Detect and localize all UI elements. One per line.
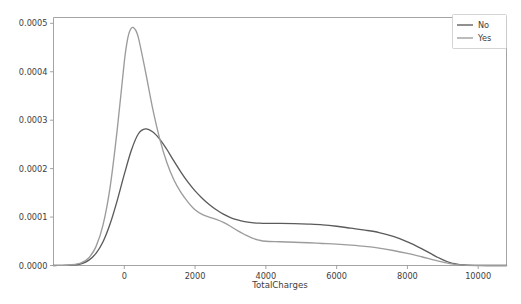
x-tick-label: 4000 [255, 271, 276, 281]
legend-label-yes: Yes [477, 33, 491, 43]
x-axis-title: TotalCharges [251, 280, 308, 290]
x-tick-label: 10000 [465, 271, 491, 281]
y-tick-label: 0.0005 [19, 18, 48, 28]
x-tick-label: 0 [122, 271, 127, 281]
legend-label-no: No [478, 20, 489, 30]
y-tick-label: 0.0000 [19, 261, 48, 271]
x-tick-label: 8000 [397, 271, 418, 281]
chart-legend[interactable]: NoYes [453, 15, 507, 49]
y-tick-label: 0.0004 [19, 67, 48, 77]
y-tick-label: 0.0002 [19, 164, 48, 174]
x-tick-label: 6000 [326, 271, 347, 281]
y-tick-label: 0.0001 [19, 212, 48, 222]
figure-background [0, 0, 521, 304]
kde-plot-svg: 0200040006000800010000 0.00000.00010.000… [0, 0, 521, 304]
y-tick-label: 0.0003 [19, 115, 48, 125]
x-tick-label: 2000 [185, 271, 206, 281]
kde-plot-figure: 0200040006000800010000 0.00000.00010.000… [0, 0, 521, 304]
